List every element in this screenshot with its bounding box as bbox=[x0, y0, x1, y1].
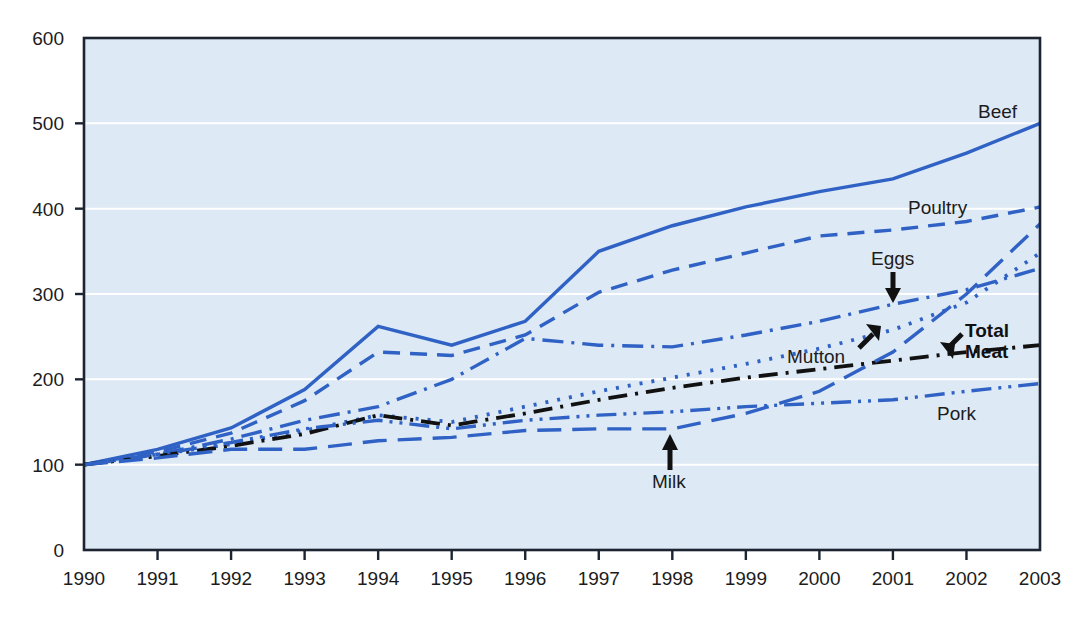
label-beef: Beef bbox=[978, 101, 1018, 122]
x-tick-label: 1990 bbox=[63, 568, 105, 589]
y-tick-label: 100 bbox=[32, 455, 64, 476]
x-tick-label: 1997 bbox=[578, 568, 620, 589]
label-pork: Pork bbox=[937, 403, 977, 424]
y-tick-label: 300 bbox=[32, 284, 64, 305]
x-tick-label: 2003 bbox=[1019, 568, 1061, 589]
y-tick-label: 500 bbox=[32, 113, 64, 134]
x-tick-label: 1992 bbox=[210, 568, 252, 589]
label-poultry: Poultry bbox=[908, 197, 968, 218]
line-chart: 0100200300400500600 19901991199219931994… bbox=[0, 0, 1076, 621]
label-eggs: Eggs bbox=[871, 248, 914, 269]
x-tick-label: 1995 bbox=[431, 568, 473, 589]
x-tick-label: 1994 bbox=[357, 568, 400, 589]
y-tick-label: 400 bbox=[32, 199, 64, 220]
y-tick-label: 600 bbox=[32, 28, 64, 49]
x-tick-label: 1996 bbox=[504, 568, 546, 589]
x-tick-label: 1991 bbox=[136, 568, 178, 589]
label-mutton: Mutton bbox=[787, 346, 845, 367]
x-tick-label: 2001 bbox=[872, 568, 914, 589]
x-tick-label: 2002 bbox=[945, 568, 987, 589]
x-tick-label: 1993 bbox=[283, 568, 325, 589]
label-total-meat-line2: Meat bbox=[965, 341, 1009, 362]
y-tick-label: 200 bbox=[32, 369, 64, 390]
chart-container: 0100200300400500600 19901991199219931994… bbox=[0, 0, 1076, 621]
x-tick-label: 1999 bbox=[725, 568, 767, 589]
y-tick-label: 0 bbox=[53, 540, 64, 561]
label-milk: Milk bbox=[652, 471, 686, 492]
x-tick-label: 2000 bbox=[798, 568, 840, 589]
label-total-meat-line1: Total bbox=[965, 320, 1009, 341]
x-tick-label: 1998 bbox=[651, 568, 693, 589]
